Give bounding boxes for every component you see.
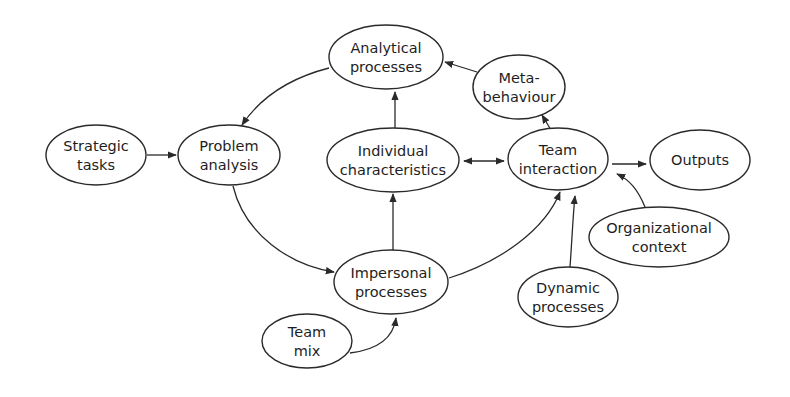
node-label: Strategic — [63, 138, 129, 154]
node-ellipse — [46, 125, 146, 185]
node-label: mix — [294, 343, 321, 359]
node-label: characteristics — [340, 162, 446, 178]
node-label: Impersonal — [350, 265, 431, 281]
nodes-layer: StrategictasksProblemanalysisAnalyticalp… — [46, 25, 750, 368]
node-ellipse — [508, 128, 608, 190]
node-label: Problem — [199, 138, 258, 154]
node-ellipse — [518, 267, 618, 327]
node-problem-analysis: Problemanalysis — [178, 125, 280, 185]
node-ellipse — [262, 314, 352, 368]
node-strategic-tasks: Strategictasks — [46, 125, 146, 185]
node-label: analysis — [200, 157, 259, 173]
node-label: tasks — [77, 157, 115, 173]
node-analytical-processes: Analyticalprocesses — [329, 25, 443, 89]
arrow-analytical-processes-to-problem-analysis — [242, 68, 329, 125]
arrow-organizational-context-to-team-interaction — [617, 174, 645, 207]
arrow-dynamic-processes-to-team-interaction — [570, 196, 575, 267]
diagram-canvas: StrategictasksProblemanalysisAnalyticalp… — [0, 0, 790, 397]
node-organizational-context: Organizationalcontext — [589, 207, 729, 267]
node-label: interaction — [519, 161, 597, 177]
node-label: Team — [538, 142, 577, 158]
arrow-meta-behaviour-to-analytical-processes — [445, 62, 477, 72]
node-label: Dynamic — [536, 280, 600, 296]
node-ellipse — [178, 125, 280, 185]
node-individual-characteristics: Individualcharacteristics — [327, 128, 459, 192]
node-label: Meta- — [498, 70, 539, 86]
node-dynamic-processes: Dynamicprocesses — [518, 267, 618, 327]
node-ellipse — [334, 250, 448, 314]
node-label: processes — [350, 59, 422, 75]
node-team-interaction: Teaminteraction — [508, 128, 608, 190]
node-team-mix: Teammix — [262, 314, 352, 368]
node-ellipse — [589, 207, 729, 267]
node-label: context — [632, 239, 687, 255]
node-ellipse — [329, 25, 443, 89]
node-label: Analytical — [350, 40, 421, 56]
node-label: processes — [355, 284, 427, 300]
arrow-problem-analysis-to-impersonal-processes — [233, 186, 334, 272]
node-impersonal-processes: Impersonalprocesses — [334, 250, 448, 314]
node-label: Team — [287, 324, 326, 340]
arrow-impersonal-processes-to-team-interaction — [449, 192, 560, 278]
node-ellipse — [473, 55, 565, 119]
node-ellipse — [327, 128, 459, 192]
node-meta-behaviour: Meta-behaviour — [473, 55, 565, 119]
arrow-team-mix-to-impersonal-processes — [350, 318, 396, 353]
node-label: Outputs — [671, 152, 729, 168]
node-label: Organizational — [606, 220, 712, 236]
node-label: behaviour — [483, 89, 556, 105]
node-label: processes — [532, 299, 604, 315]
node-label: Individual — [358, 143, 429, 159]
node-outputs: Outputs — [650, 130, 750, 190]
